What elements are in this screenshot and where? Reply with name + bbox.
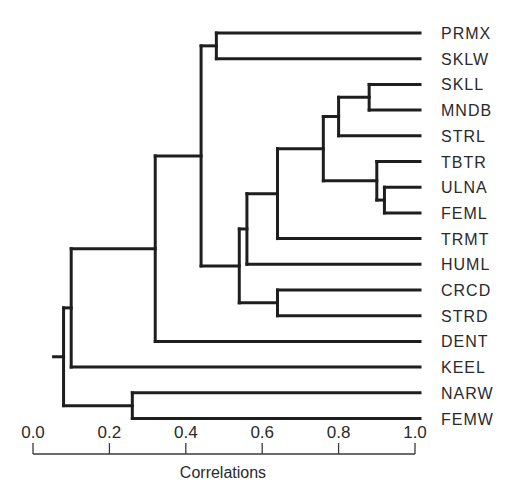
x-axis-ticks: 0.00.20.40.60.81.0 bbox=[21, 423, 427, 454]
x-tick-label: 0.2 bbox=[98, 423, 122, 442]
x-tick-label: 1.0 bbox=[403, 423, 427, 442]
leaf-label-skll: SKLL bbox=[441, 76, 484, 93]
x-tick-label: 0.4 bbox=[174, 423, 198, 442]
x-axis: 0.00.20.40.60.81.0 Correlations bbox=[21, 423, 427, 481]
leaf-label-trmt: TRMT bbox=[441, 231, 489, 248]
x-tick-label: 0.6 bbox=[250, 423, 274, 442]
leaf-label-huml: HUML bbox=[441, 256, 490, 273]
leaf-label-feml: FEML bbox=[441, 205, 488, 222]
leaf-label-tbtr: TBTR bbox=[441, 154, 487, 171]
leaf-label-strl: STRL bbox=[441, 128, 486, 145]
leaf-label-strd: STRD bbox=[441, 308, 489, 325]
dendrogram-branches bbox=[54, 33, 420, 419]
leaf-label-keel: KEEL bbox=[441, 359, 486, 376]
leaf-label-dent: DENT bbox=[441, 333, 489, 350]
leaf-label-ulna: ULNA bbox=[441, 179, 488, 196]
leaf-label-crcd: CRCD bbox=[441, 282, 491, 299]
leaf-label-sklw: SKLW bbox=[441, 51, 489, 68]
leaf-label-narw: NARW bbox=[441, 385, 494, 402]
x-axis-title: Correlations bbox=[180, 464, 266, 481]
x-tick-label: 0.0 bbox=[21, 423, 45, 442]
leaf-label-femw: FEMW bbox=[441, 411, 494, 428]
x-tick-label: 0.8 bbox=[327, 423, 351, 442]
leaf-labels: PRMXSKLWSKLLMNDBSTRLTBTRULNAFEMLTRMTHUML… bbox=[441, 25, 494, 428]
leaf-label-prmx: PRMX bbox=[441, 25, 491, 42]
leaf-label-mndb: MNDB bbox=[441, 102, 492, 119]
dendrogram-chart: PRMXSKLWSKLLMNDBSTRLTBTRULNAFEMLTRMTHUML… bbox=[0, 0, 514, 499]
